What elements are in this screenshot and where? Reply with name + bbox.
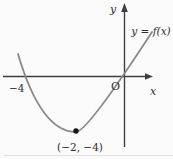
parabola-curve xyxy=(18,32,152,132)
origin-label: O xyxy=(111,80,120,93)
x-axis-label: x xyxy=(150,85,157,98)
x-axis-arrow-icon xyxy=(145,73,153,80)
x-intercept-label: −4 xyxy=(9,82,25,94)
parabola-plot-canvas: y y = f(x) O x −4 (−2, −4) xyxy=(0,0,173,159)
curve-equation-label: y = f(x) xyxy=(130,25,170,37)
function-graph-figure: y y = f(x) O x −4 (−2, −4) xyxy=(0,0,173,159)
vertex-coordinates-label: (−2, −4) xyxy=(57,141,103,153)
y-axis-arrow-icon xyxy=(121,3,128,12)
y-axis-label: y xyxy=(109,3,117,16)
vertex-point xyxy=(73,128,78,133)
